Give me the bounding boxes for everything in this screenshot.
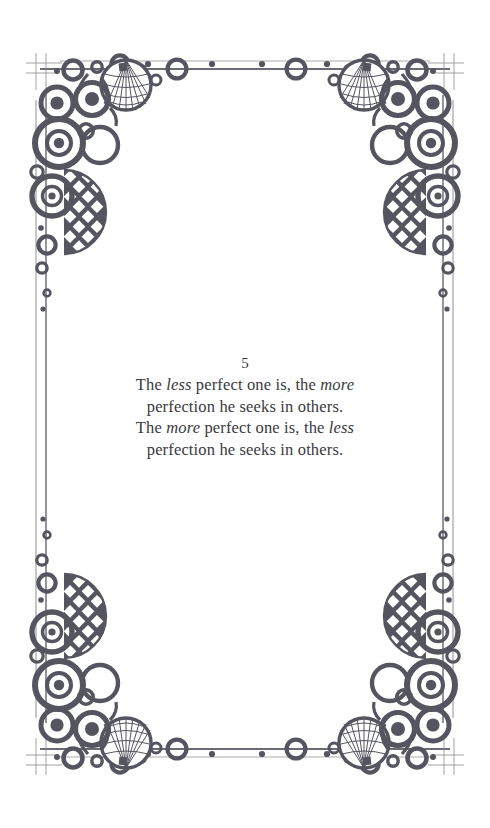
verse-line-1: The less perfect one is, the more — [0, 374, 490, 396]
verse-text-run: perfect one is, the — [200, 418, 329, 437]
verse-text: The less perfect one is, the more perfec… — [0, 374, 490, 460]
verse-line-3: The more perfect one is, the less — [0, 417, 490, 439]
verse-emphasis: less — [166, 375, 191, 394]
page-canvas: 5 The less perfect one is, the more perf… — [0, 0, 490, 828]
verse-text-run: The — [136, 375, 166, 394]
verse-number: 5 — [0, 354, 490, 373]
verse-text-run: The — [136, 418, 166, 437]
verse-line-4: perfection he seeks in others. — [0, 439, 490, 461]
verse-text-run: perfection he seeks in others. — [147, 440, 343, 459]
verse-emphasis: more — [320, 375, 354, 394]
verse-emphasis: more — [166, 418, 200, 437]
verse-text-run: perfection he seeks in others. — [147, 397, 343, 416]
verse-line-2: perfection he seeks in others. — [0, 396, 490, 418]
verse-emphasis: less — [329, 418, 354, 437]
verse-block: 5 The less perfect one is, the more perf… — [0, 354, 490, 460]
verse-text-run: perfect one is, the — [192, 375, 321, 394]
